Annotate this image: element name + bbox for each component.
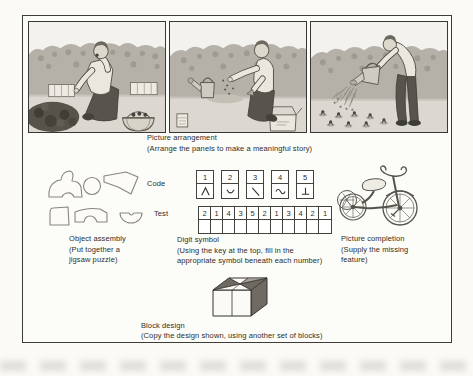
puzzle-piece-6 bbox=[120, 213, 142, 223]
test-number-cell: 1 bbox=[211, 207, 223, 220]
code-box-3: 3 bbox=[246, 170, 264, 199]
seat bbox=[362, 179, 385, 191]
picture-arrangement-panel-3 bbox=[310, 21, 448, 133]
test-number-cell: 1 bbox=[271, 207, 283, 220]
code-number-2: 2 bbox=[222, 171, 238, 184]
block-design-caption: Block design (Copy the design shown, usi… bbox=[141, 321, 323, 341]
test-number-cell: 3 bbox=[235, 207, 247, 220]
picture-arrangement-panel-2 bbox=[169, 21, 307, 133]
test-answer-cell[interactable] bbox=[283, 220, 295, 233]
test-number-cell: 3 bbox=[283, 207, 295, 220]
puzzle-piece-1 bbox=[49, 171, 82, 197]
object-assembly-caption: Object assembly (Put together a jigsaw p… bbox=[69, 234, 126, 266]
test-answer-cell[interactable] bbox=[199, 220, 211, 233]
object-assembly-subtitle-1: (Put together a bbox=[69, 245, 126, 256]
digit-symbol-caption: Digit symbol (Using the key at the top, … bbox=[177, 235, 322, 267]
test-number-cell: 4 bbox=[295, 207, 307, 220]
wais-figure-frame: Picture arrangement (Arrange the panels … bbox=[22, 15, 452, 343]
picture-completion-subtitle-2: feature) bbox=[341, 255, 408, 266]
test-answer-cell[interactable] bbox=[319, 220, 331, 233]
code-number-3: 3 bbox=[247, 171, 263, 184]
test-number-cell: 4 bbox=[223, 207, 235, 220]
test-number-cell: 5 bbox=[247, 207, 259, 220]
single-pedal bbox=[391, 208, 400, 217]
puzzle-piece-5 bbox=[75, 208, 107, 222]
test-number-cell: 1 bbox=[319, 207, 331, 220]
digit-symbol-subtitle-1: (Using the key at the top, fill in the bbox=[177, 246, 322, 257]
test-answer-cell[interactable] bbox=[259, 220, 271, 233]
panel-1-illustration bbox=[29, 22, 165, 132]
test-answer-cell[interactable] bbox=[295, 220, 307, 233]
picture-arrangement-panel-1 bbox=[28, 21, 166, 133]
panel-2-illustration bbox=[170, 22, 306, 132]
object-assembly-subtitle-2: jigsaw puzzle) bbox=[69, 255, 126, 266]
page-bottom-smudge bbox=[0, 361, 473, 371]
code-label: Code bbox=[147, 179, 165, 190]
picture-arrangement-caption: Picture arrangement (Arrange the panels … bbox=[147, 133, 312, 154]
code-box-4: 4 bbox=[271, 170, 289, 199]
puzzle-piece-4 bbox=[50, 207, 69, 225]
handlebar-left bbox=[381, 166, 393, 176]
inverted-tee-icon bbox=[300, 186, 311, 197]
test-answer-cell[interactable] bbox=[235, 220, 247, 233]
test-number-cell: 2 bbox=[199, 207, 211, 220]
digit-symbol-title: Digit symbol bbox=[177, 235, 322, 246]
object-assembly-title: Object assembly bbox=[69, 234, 126, 245]
puzzle-piece-3 bbox=[104, 172, 138, 194]
caret-icon bbox=[200, 186, 211, 197]
block-design-illustration bbox=[206, 266, 278, 322]
test-answer-cell[interactable] bbox=[271, 220, 283, 233]
wave-icon bbox=[275, 186, 286, 197]
code-number-1: 1 bbox=[197, 171, 213, 184]
code-box-2: 2 bbox=[221, 170, 239, 199]
block-design-title: Block design bbox=[141, 321, 323, 331]
handlebar-right bbox=[393, 167, 406, 176]
test-answer-cell[interactable] bbox=[211, 220, 223, 233]
code-number-4: 4 bbox=[272, 171, 288, 184]
picture-completion-caption: Picture completion (Supply the missing f… bbox=[341, 234, 408, 266]
shallow-curve-icon bbox=[225, 186, 236, 197]
figure-page: Picture arrangement (Arrange the panels … bbox=[0, 0, 473, 376]
test-label: Test bbox=[154, 209, 168, 220]
picture-arrangement-subtitle: (Arrange the panels to make a meaningful… bbox=[147, 144, 312, 155]
puzzle-piece-2 bbox=[84, 178, 101, 195]
seed-packet bbox=[177, 114, 188, 127]
picture-completion-title: Picture completion bbox=[341, 234, 408, 245]
test-number-cell: 2 bbox=[259, 207, 271, 220]
test-answer-cell[interactable] bbox=[247, 220, 259, 233]
code-number-5: 5 bbox=[297, 171, 313, 184]
seat-post bbox=[362, 191, 374, 203]
backslash-icon bbox=[250, 186, 261, 197]
object-assembly-illustration bbox=[43, 168, 147, 232]
test-grid: 2 1 4 3 5 2 1 3 4 2 1 bbox=[198, 206, 332, 234]
tricycle-illustration bbox=[336, 163, 424, 233]
block-design-subtitle: (Copy the design shown, using another se… bbox=[141, 331, 323, 341]
code-box-5: 5 bbox=[296, 170, 314, 199]
picture-arrangement-title: Picture arrangement bbox=[147, 133, 312, 144]
test-number-cell: 2 bbox=[307, 207, 319, 220]
test-answer-cell[interactable] bbox=[223, 220, 235, 233]
digit-symbol-subtitle-2: appropriate symbol beneath each number) bbox=[177, 256, 322, 267]
test-answer-cell[interactable] bbox=[307, 220, 319, 233]
picture-completion-subtitle-1: (Supply the missing bbox=[341, 245, 408, 256]
code-box-1: 1 bbox=[196, 170, 214, 199]
panel-3-illustration bbox=[311, 22, 447, 132]
code-key: 1 2 3 4 5 bbox=[196, 170, 314, 199]
